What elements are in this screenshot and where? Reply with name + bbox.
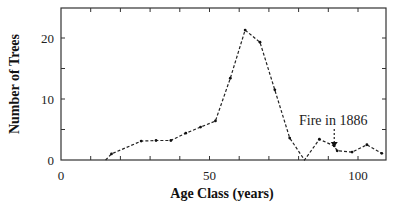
data-point [169,139,172,142]
y-tick-label: 0 [48,153,55,168]
data-point [336,149,339,152]
line-chart: 05010001020 Fire in 1886 Age Class (year… [0,0,396,213]
data-point [184,132,187,135]
axis-ticks [61,8,386,160]
data-point [366,143,369,146]
x-axis-title: Age Class (years) [170,186,274,202]
data-point [214,120,217,123]
arrowhead-icon [331,142,338,147]
data-point [244,29,247,32]
data-point [273,88,276,91]
data-point [380,152,383,155]
data-markers [110,29,383,156]
x-tick-label: 0 [58,168,65,183]
data-point [259,41,262,44]
annotation-label: Fire in 1886 [299,113,367,128]
data-point [318,138,321,141]
data-point [155,139,158,142]
y-tick-label: 20 [41,31,54,46]
fire-annotation: Fire in 1886 [299,113,367,147]
x-tick-label: 100 [348,168,368,183]
data-point [199,126,202,129]
data-point [288,137,291,140]
data-point [110,153,113,156]
y-axis-title: Number of Trees [7,33,22,134]
data-point [351,151,354,154]
data-line [106,30,382,160]
plot-frame [61,8,386,160]
y-tick-label: 10 [41,92,54,107]
data-point [140,140,143,143]
data-point [229,77,232,80]
x-tick-label: 50 [203,168,216,183]
